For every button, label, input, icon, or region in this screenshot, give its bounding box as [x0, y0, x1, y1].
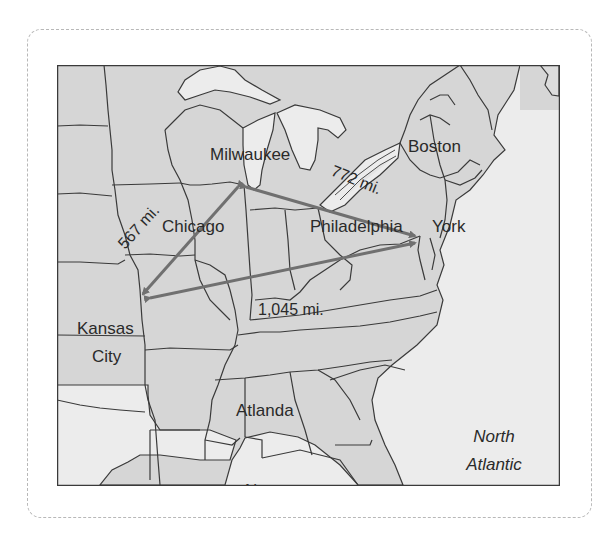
label-ocean-line1: North — [473, 427, 515, 446]
label-atlanda: Atlanda — [236, 401, 294, 420]
label-milwaukee: Milwaukee — [210, 145, 290, 164]
label-chicago: Chicago — [162, 217, 224, 236]
label-boston: Boston — [408, 137, 461, 156]
label-kansas: Kansas — [77, 319, 134, 338]
label-city: City — [92, 347, 122, 366]
eastern-us-map: Milwaukee Boston Chicago Philadelphia Yo… — [57, 65, 560, 486]
label-york: York — [432, 217, 466, 236]
label-philadelphia: Philadelphia — [310, 217, 403, 236]
label-distance-1045: 1,045 mi. — [258, 301, 324, 318]
label-ocean-line2: Atlantic — [465, 455, 522, 474]
